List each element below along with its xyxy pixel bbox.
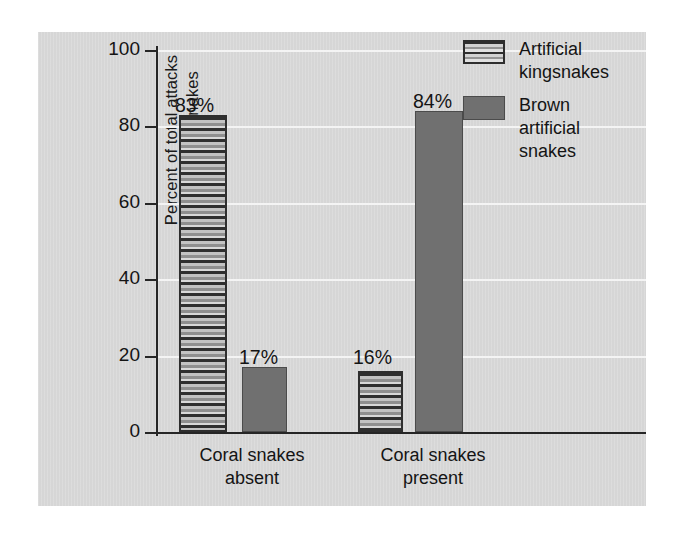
legend-swatch-solid-icon [463,96,505,120]
y-tick-mark-100 [145,50,156,52]
figure: Percent of total attacks on artificial s… [0,0,678,537]
bar-label-present-brown: 84% [413,90,452,113]
bar-absent-kingsnakes[interactable] [179,115,227,432]
bar-label-absent-kingsnakes: 83% [175,94,214,117]
y-tick-mark-20 [145,356,156,358]
y-tick-80-label: 80 [80,114,140,136]
bar-present-kingsnakes[interactable] [358,371,403,432]
y-tick-mark-80 [145,126,156,128]
y-tick-mark-60 [145,203,156,205]
x-group-label-absent: Coral snakes absent [167,444,337,490]
y-tick-60-label: 60 [80,191,140,213]
y-tick-mark-0 [145,432,156,434]
x-axis-line [156,432,646,434]
bar-label-absent-brown: 17% [239,346,278,369]
legend-label-brown: Brown artificial snakes [519,94,580,163]
chart-panel: Percent of total attacks on artificial s… [38,32,646,506]
bar-label-present-kingsnakes: 16% [353,346,392,369]
bar-absent-brown[interactable] [242,367,287,432]
x-group-label-present: Coral snakes present [343,444,523,490]
bar-present-brown[interactable] [415,111,463,432]
y-tick-0-label: 0 [80,420,140,442]
y-tick-20-label: 20 [80,344,140,366]
legend-label-kingsnakes: Artificial kingsnakes [519,38,609,84]
legend-item-brown[interactable]: Brown artificial snakes [463,94,663,163]
y-tick-100-label: 100 [80,38,140,60]
y-tick-mark-40 [145,279,156,281]
legend-swatch-striped-icon [463,40,505,64]
legend-item-kingsnakes[interactable]: Artificial kingsnakes [463,38,663,84]
y-tick-40-label: 40 [80,267,140,289]
legend: Artificial kingsnakes Brown artificial s… [463,38,663,173]
